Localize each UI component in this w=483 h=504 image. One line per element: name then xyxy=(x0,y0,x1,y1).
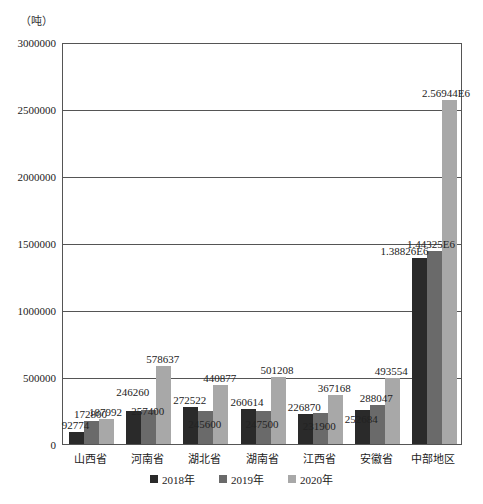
value-label: 272522 xyxy=(173,394,206,406)
y-axis-unit: （吨） xyxy=(20,12,53,28)
value-label: 501208 xyxy=(261,364,294,376)
x-tick-label: 山西省 xyxy=(74,450,107,466)
x-tick-label: 中部地区 xyxy=(411,450,455,466)
y-tick-label: 500000 xyxy=(23,372,56,384)
bar xyxy=(412,258,427,444)
value-label: 247500 xyxy=(246,418,279,430)
legend-label: 2018年 xyxy=(162,471,195,487)
gridline xyxy=(63,311,461,312)
y-tick-label: 2000000 xyxy=(18,171,57,183)
bar xyxy=(385,378,400,444)
value-label: 1.44325E6 xyxy=(407,238,455,250)
bar xyxy=(271,377,286,444)
gridline xyxy=(63,177,461,178)
legend-item: 2020年 xyxy=(288,471,333,487)
legend-swatch-icon xyxy=(288,475,296,483)
bar xyxy=(442,100,457,444)
legend-label: 2020年 xyxy=(300,471,333,487)
y-tick-label: 1500000 xyxy=(18,238,57,250)
y-tick-label: 0 xyxy=(51,439,57,451)
value-label: 231900 xyxy=(303,420,336,432)
legend: 2018年2019年2020年 xyxy=(0,471,483,487)
legend-item: 2018年 xyxy=(150,471,195,487)
value-label: 440877 xyxy=(203,372,236,384)
bar xyxy=(99,419,114,444)
value-label: 252684 xyxy=(345,413,378,425)
value-label: 260614 xyxy=(231,396,264,408)
gridline xyxy=(63,110,461,111)
value-label: 578637 xyxy=(146,353,179,365)
value-label: 92774 xyxy=(62,419,90,431)
bar xyxy=(213,385,228,444)
legend-label: 2019年 xyxy=(231,471,264,487)
x-tick-label: 河南省 xyxy=(131,450,164,466)
legend-item: 2019年 xyxy=(219,471,264,487)
y-tick-label: 3000000 xyxy=(18,37,57,49)
gridline xyxy=(63,378,461,379)
y-tick-label: 1000000 xyxy=(18,305,57,317)
bar-chart: （吨） 050000010000001500000200000025000003… xyxy=(0,0,483,504)
value-label: 288047 xyxy=(360,392,393,404)
legend-swatch-icon xyxy=(150,475,158,483)
legend-swatch-icon xyxy=(219,475,227,483)
y-tick-label: 2500000 xyxy=(18,104,57,116)
value-label: 246260 xyxy=(116,386,149,398)
x-tick-label: 湖南省 xyxy=(246,450,279,466)
value-label: 257400 xyxy=(131,405,164,417)
x-tick-label: 江西省 xyxy=(303,450,336,466)
bar xyxy=(427,251,442,444)
value-label: 245600 xyxy=(188,418,221,430)
x-tick-label: 湖北省 xyxy=(188,450,221,466)
value-label: 367168 xyxy=(318,382,351,394)
bar xyxy=(69,432,84,444)
x-tick-label: 安徽省 xyxy=(360,450,393,466)
value-label: 2.56944E6 xyxy=(422,87,470,99)
value-label: 187992 xyxy=(89,406,122,418)
value-label: 493554 xyxy=(375,365,408,377)
value-label: 226870 xyxy=(288,401,321,413)
